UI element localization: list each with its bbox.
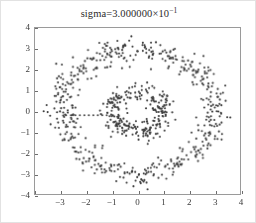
x-axis-tick-mark — [216, 191, 217, 194]
x-axis-tick-mark — [113, 191, 114, 194]
x-axis-tick-mark — [139, 191, 140, 194]
x-axis-tick-mark — [35, 191, 36, 194]
x-axis-tick-label: −1 — [107, 197, 117, 207]
y-axis-tick-label: −1 — [20, 127, 30, 137]
x-axis-tick-label: 0 — [135, 197, 140, 207]
plot-axes-frame — [34, 27, 241, 195]
y-axis-tick-label: 1 — [26, 85, 31, 95]
plot-title-base: 10 — [158, 8, 169, 19]
scatter-points-canvas — [35, 28, 240, 194]
x-axis-tick-label: 2 — [187, 197, 192, 207]
y-axis-tick-label: −2 — [20, 148, 30, 158]
y-axis-tick-label: 4 — [26, 22, 31, 32]
x-axis-tick-mark — [87, 191, 88, 194]
x-axis-tick-mark — [61, 191, 62, 194]
x-axis-tick-label: 4 — [239, 197, 244, 207]
x-axis-tick-mark — [242, 191, 243, 194]
scatter-plot-figure: sigma=3.000000×10−1 −3−2−101234−4−3−2−10… — [0, 0, 256, 223]
y-axis-tick-label: −3 — [20, 169, 30, 179]
y-axis-tick-label: 0 — [26, 106, 31, 116]
y-axis-tick-mark — [35, 49, 38, 50]
y-axis-tick-label: 3 — [26, 43, 31, 53]
y-axis-tick-label: 2 — [26, 64, 31, 74]
y-axis-tick-mark — [35, 91, 38, 92]
plot-title-prefix: sigma=3.000000 — [81, 8, 153, 19]
x-axis-tick-label: 1 — [161, 197, 166, 207]
y-axis-tick-mark — [35, 70, 38, 71]
x-axis-tick-mark — [190, 191, 191, 194]
x-axis-tick-label: −3 — [55, 197, 65, 207]
x-axis-tick-label: −2 — [81, 197, 91, 207]
y-axis-tick-label: −4 — [20, 190, 30, 200]
y-axis-tick-mark — [35, 28, 38, 29]
y-axis-tick-mark — [35, 196, 38, 197]
plot-title: sigma=3.000000×10−1 — [1, 8, 256, 19]
x-axis-tick-mark — [164, 191, 165, 194]
y-axis-tick-mark — [35, 175, 38, 176]
y-axis-tick-mark — [35, 133, 38, 134]
plot-title-exponent: −1 — [169, 6, 177, 15]
y-axis-tick-mark — [35, 112, 38, 113]
y-axis-tick-mark — [35, 154, 38, 155]
x-axis-tick-label: 3 — [213, 197, 218, 207]
